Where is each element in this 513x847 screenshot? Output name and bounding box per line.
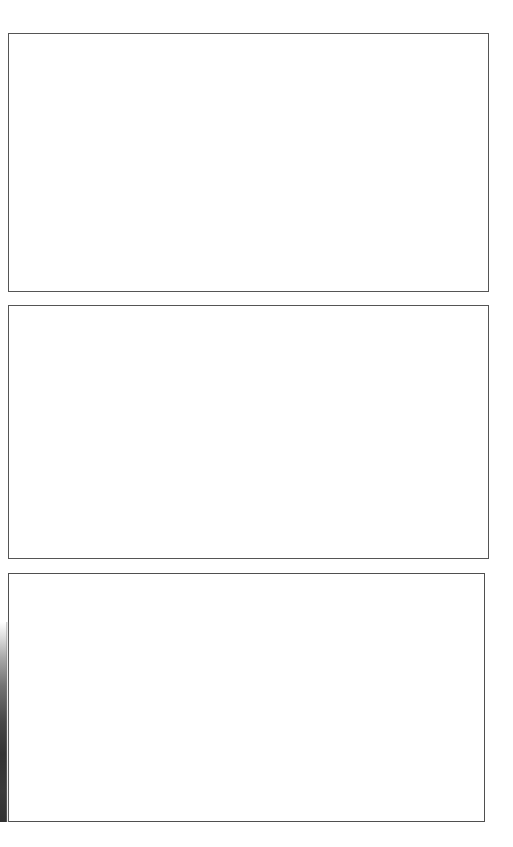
content-panel-2[interactable] bbox=[8, 305, 489, 559]
content-panel-3-body bbox=[9, 574, 484, 821]
content-panel-1[interactable] bbox=[8, 33, 489, 292]
content-panel-2-body bbox=[9, 306, 488, 558]
page-canvas bbox=[0, 0, 513, 847]
content-panel-3[interactable] bbox=[8, 573, 485, 822]
left-edge-shadow-artifact bbox=[0, 622, 7, 822]
content-panel-1-body bbox=[9, 34, 488, 291]
